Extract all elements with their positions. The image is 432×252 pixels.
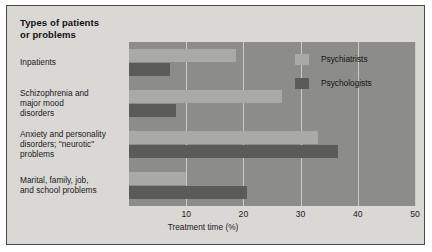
x-tick-label: 10 [181,209,191,219]
bar [129,104,176,117]
category-label-line: disorders; "neurotic" [20,139,130,149]
category-label: Schizophrenia andmajor mooddisorders [20,88,130,119]
chart-title-line: or problems [20,29,132,41]
bar [129,145,338,158]
category-label-line: Anxiety and personality [20,129,130,139]
category-label-line: Schizophrenia and [20,88,130,98]
category-label-line: Inpatients [20,57,130,67]
chart-panel: Types of patientsor problems InpatientsS… [6,5,425,245]
plot-area: PsychiatristsPsychologists [129,42,415,206]
x-tick-label: 20 [239,209,249,219]
category-label-line: problems [20,149,130,159]
bar [129,49,236,62]
bar [129,172,186,185]
bar [129,63,170,76]
category-label-line: disorders [20,108,130,118]
gridline [415,42,416,206]
legend-swatch-icon [295,54,309,65]
chart-legend: PsychiatristsPsychologists [295,53,407,99]
legend-swatch-icon [295,78,309,89]
bar [129,186,247,199]
category-label-line: major mood [20,98,130,108]
legend-label: Psychiatrists [321,53,368,65]
category-label: Anxiety and personalitydisorders; "neuro… [20,129,130,160]
chart-title-line: Types of patients [20,17,132,29]
chart-figure: Types of patientsor problems InpatientsS… [0,0,432,252]
x-tick-label: 40 [353,209,363,219]
category-label: Inpatients [20,57,130,67]
bar [129,131,318,144]
gridline [243,42,244,206]
category-label: Marital, family, job,and school problems [20,175,130,195]
bar [129,90,282,103]
x-tick-label: 30 [296,209,306,219]
gridline [186,42,187,206]
legend-label: Psychologists [321,77,372,89]
category-label-line: Marital, family, job, [20,175,130,185]
x-tick-label: 50 [410,209,420,219]
x-axis-title: Treatment time (%) [168,222,239,232]
category-label-line: and school problems [20,185,130,195]
chart-title: Types of patientsor problems [20,17,132,40]
x-axis-ticks: 1020304050 [129,206,415,222]
category-axis-labels: InpatientsSchizophrenia andmajor mooddis… [20,42,128,206]
